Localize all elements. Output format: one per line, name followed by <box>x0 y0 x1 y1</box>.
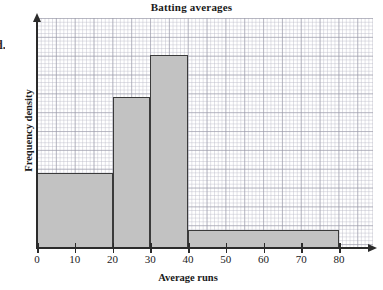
histogram-bar <box>113 97 151 248</box>
margin-cutoff-text: d. <box>0 38 5 54</box>
x-axis-line <box>36 247 374 249</box>
x-axis-tick-label: 70 <box>286 253 316 265</box>
x-axis-tick-label: 30 <box>135 253 165 265</box>
y-axis-label: Frequency density <box>23 61 34 201</box>
x-axis-tick <box>150 243 152 253</box>
x-axis-tick-label: 10 <box>60 253 90 265</box>
histogram-bar <box>37 173 113 248</box>
x-axis-arrow-icon <box>368 244 377 252</box>
x-axis-tick <box>264 243 266 253</box>
x-axis-tick <box>339 243 341 253</box>
x-axis-tick <box>113 243 115 253</box>
chart-figure: Batting averages d. Frequency density 01… <box>0 0 383 290</box>
x-axis-tick-label: 60 <box>249 253 279 265</box>
x-axis-tick-label: 50 <box>211 253 241 265</box>
y-axis-arrow-icon <box>33 13 41 22</box>
x-axis-tick-label: 0 <box>22 253 52 265</box>
x-axis-tick-label: 40 <box>173 253 203 265</box>
x-axis-tick-label: 80 <box>324 253 354 265</box>
y-axis-line <box>36 21 38 249</box>
histogram-bar <box>150 55 188 248</box>
x-axis-tick <box>75 243 77 253</box>
x-axis-tick-label: 20 <box>98 253 128 265</box>
x-axis-tick <box>226 243 228 253</box>
x-axis-tick <box>301 243 303 253</box>
chart-title: Batting averages <box>0 1 383 13</box>
x-axis-tick <box>188 243 190 253</box>
x-axis-tick <box>37 243 39 253</box>
x-axis-label: Average runs <box>37 272 339 283</box>
plot-area <box>37 18 373 248</box>
